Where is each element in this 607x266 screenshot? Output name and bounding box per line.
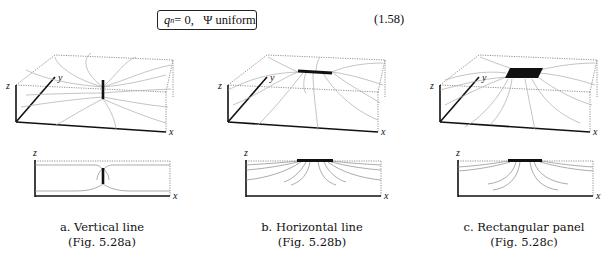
panel-c-3d: z y x [429,55,598,137]
x-axis-label: x [383,190,389,201]
caption-a: a. Vertical line (Fig. 5.28a) [22,220,182,250]
caption-b-title: b. Horizontal line [232,220,392,235]
y-axis-label: y [57,72,63,83]
z-axis-label: z [243,147,248,158]
caption-c-title: c. Rectangular panel [444,220,604,235]
panel-a-3d: z y x [5,53,174,137]
z-axis-label: z [217,80,222,91]
y-axis-label: y [481,72,487,83]
x-axis-label: x [595,190,601,201]
streamlines-b [228,57,383,130]
x-axis-label: x [172,190,178,201]
panel-c-2d: z x [455,147,601,201]
z-axis-label: z [429,80,434,91]
panel-b-3d: z y x [217,55,386,137]
x-axis-label: x [168,126,174,137]
caption-a-ref: (Fig. 5.28a) [22,235,182,250]
caption-a-title: a. Vertical line [22,220,182,235]
x-axis-label: x [592,126,598,137]
caption-c-ref: (Fig. 5.28c) [444,235,604,250]
y-axis-label: y [269,72,275,83]
horizontal-line-source [298,71,332,73]
caption-c: c. Rectangular panel (Fig. 5.28c) [444,220,604,250]
x-axis-label: x [380,126,386,137]
rectangular-panel-source [505,68,543,78]
panel-a-2d: z x [32,147,178,201]
z-axis-label: z [32,147,37,158]
panel-b-2d: z x [243,147,389,201]
caption-b: b. Horizontal line (Fig. 5.28b) [232,220,392,250]
streamlines-c [440,57,595,130]
z-axis-label: z [455,147,460,158]
z-axis-label: z [5,80,10,91]
caption-b-ref: (Fig. 5.28b) [232,235,392,250]
